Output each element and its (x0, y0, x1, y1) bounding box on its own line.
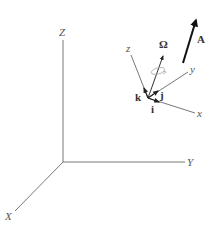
fixed-frame: Z Y X (4, 26, 195, 222)
unit-vector-k-label: k (135, 91, 142, 103)
fixed-x-label: X (4, 210, 13, 222)
local-z-label: z (125, 42, 131, 54)
vector-a-label: A (197, 33, 205, 45)
local-x-label: x (196, 107, 202, 119)
omega-label: Ω (159, 38, 168, 50)
fixed-x-axis (15, 162, 63, 211)
rotation-arrowhead-icon (163, 71, 166, 74)
fixed-y-label: Y (187, 156, 195, 168)
vector-a: A (183, 20, 205, 63)
unit-vector-j-label: j (159, 89, 164, 101)
vector-a-arrow (183, 20, 196, 63)
unit-vector-k-arrow (144, 88, 148, 98)
fixed-z-label: Z (59, 26, 66, 38)
coordinate-frames-diagram: Z Y X z y x i j k Ω A (0, 0, 216, 236)
rotating-frame: z y x i j k Ω (125, 38, 202, 119)
unit-vector-i-arrow (148, 98, 159, 102)
local-y-label: y (189, 63, 195, 75)
unit-vector-i-label: i (151, 103, 154, 115)
